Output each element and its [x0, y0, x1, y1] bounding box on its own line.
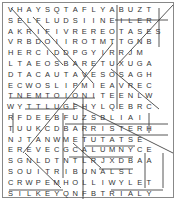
grid-cell[interactable]	[163, 124, 172, 135]
grid-cell[interactable]	[154, 16, 163, 27]
grid-cell[interactable]	[154, 113, 163, 124]
grid-cell[interactable]	[163, 167, 172, 178]
grid-cell[interactable]: W	[144, 91, 153, 102]
grid-cell[interactable]: O	[43, 59, 52, 70]
grid-cell[interactable]: T	[15, 70, 24, 81]
grid-cell[interactable]	[163, 135, 172, 146]
grid-cell[interactable]: R	[89, 27, 98, 38]
grid-cell[interactable]: E	[135, 178, 144, 189]
grid-cell[interactable]: E	[117, 102, 126, 113]
grid-cell[interactable]: F	[61, 113, 70, 124]
grid-cell[interactable]: G	[15, 156, 24, 167]
grid-cell[interactable]: I	[61, 81, 70, 92]
grid-cell[interactable]: S	[135, 27, 144, 38]
grid-cell[interactable]	[154, 59, 163, 70]
grid-cell[interactable]: Y	[89, 48, 98, 59]
grid-cell[interactable]: I	[34, 27, 43, 38]
grid-cell[interactable]: A	[126, 189, 135, 200]
grid-cell[interactable]: T	[43, 91, 52, 102]
grid-cell[interactable]: K	[15, 27, 24, 38]
grid-cell[interactable]: A	[126, 27, 135, 38]
grid-cell[interactable]: E	[43, 113, 52, 124]
grid-cell[interactable]: E	[98, 27, 107, 38]
grid-cell[interactable]: H	[80, 102, 89, 113]
grid-cell[interactable]: U	[107, 59, 116, 70]
grid-cell[interactable]: R	[71, 37, 80, 48]
grid-cell[interactable]: T	[61, 5, 70, 16]
grid-cell[interactable]: L	[98, 102, 107, 113]
grid-cell[interactable]: P	[71, 48, 80, 59]
grid-cell[interactable]: L	[80, 156, 89, 167]
grid-cell[interactable]: L	[24, 189, 33, 200]
grid-cell[interactable]: A	[107, 81, 116, 92]
grid-cell[interactable]: H	[61, 178, 70, 189]
grid-cell[interactable]: E	[144, 145, 153, 156]
grid-cell[interactable]: I	[89, 81, 98, 92]
grid-cell[interactable]: I	[98, 178, 107, 189]
grid-cell[interactable]	[154, 189, 163, 200]
grid-cell[interactable]	[154, 167, 163, 178]
grid-cell[interactable]	[163, 5, 172, 16]
grid-cell[interactable]: A	[71, 124, 80, 135]
grid-cell[interactable]: A	[24, 5, 33, 16]
grid-cell[interactable]: D	[24, 113, 33, 124]
grid-cell[interactable]: R	[15, 145, 24, 156]
grid-cell[interactable]: G	[135, 59, 144, 70]
grid-cell[interactable]: F	[15, 113, 24, 124]
grid-cell[interactable]: A	[24, 70, 33, 81]
grid-cell[interactable]: B	[52, 113, 61, 124]
grid-cell[interactable]: A	[126, 113, 135, 124]
grid-cell[interactable]: T	[52, 156, 61, 167]
grid-cell[interactable]	[163, 102, 172, 113]
grid-cell[interactable]: L	[126, 16, 135, 27]
grid-cell[interactable]: T	[117, 124, 126, 135]
grid-cell[interactable]: B	[98, 113, 107, 124]
grid-cell[interactable]	[163, 156, 172, 167]
grid-cell[interactable]: E	[71, 135, 80, 146]
grid-cell[interactable]: C	[144, 81, 153, 92]
grid-cell[interactable]: O	[34, 81, 43, 92]
grid-cell[interactable]: A	[34, 135, 43, 146]
grid-cell[interactable]: E	[15, 16, 24, 27]
grid-cell[interactable]: E	[144, 27, 153, 38]
grid-cell[interactable]: E	[15, 48, 24, 59]
grid-cell[interactable]: W	[24, 178, 33, 189]
grid-cell[interactable]: Z	[80, 113, 89, 124]
grid-cell[interactable]: E	[89, 70, 98, 81]
grid-cell[interactable]	[144, 48, 153, 59]
grid-cell[interactable]: R	[89, 124, 98, 135]
grid-cell[interactable]: I	[98, 48, 107, 59]
grid-cell[interactable]: S	[6, 156, 15, 167]
grid-cell[interactable]	[163, 27, 172, 38]
grid-cell[interactable]: G	[135, 70, 144, 81]
grid-cell[interactable]: E	[43, 145, 52, 156]
grid-cell[interactable]: Y	[98, 5, 107, 16]
grid-cell[interactable]	[163, 81, 172, 92]
grid-cell[interactable]: N	[6, 135, 15, 146]
grid-cell[interactable]: T	[61, 70, 70, 81]
grid-cell[interactable]: T	[98, 91, 107, 102]
grid-cell[interactable]: E	[107, 91, 116, 102]
grid-cell[interactable]: N	[80, 91, 89, 102]
grid-cell[interactable]: M	[80, 81, 89, 92]
grid-cell[interactable]: A	[98, 167, 107, 178]
grid-cell[interactable]: A	[43, 70, 52, 81]
grid-cell[interactable]: B	[126, 156, 135, 167]
grid-cell[interactable]: N	[61, 156, 70, 167]
grid-cell[interactable]: N	[89, 167, 98, 178]
grid-cell[interactable]: Y	[117, 178, 126, 189]
grid-cell[interactable]: O	[80, 37, 89, 48]
grid-cell[interactable]: U	[52, 102, 61, 113]
grid-cell[interactable]: L	[107, 167, 116, 178]
grid-cell[interactable]: I	[61, 37, 70, 48]
grid-cell[interactable]	[163, 59, 172, 70]
grid-cell[interactable]: R	[89, 156, 98, 167]
grid-cell[interactable]: A	[144, 59, 153, 70]
grid-cell[interactable]: C	[34, 48, 43, 59]
grid-cell[interactable]: L	[43, 102, 52, 113]
grid-cell[interactable]: N	[24, 156, 33, 167]
grid-cell[interactable]: L	[126, 178, 135, 189]
grid-cell[interactable]: R	[144, 16, 153, 27]
grid-cell[interactable]: V	[61, 27, 70, 38]
grid-cell[interactable]: L	[135, 91, 144, 102]
